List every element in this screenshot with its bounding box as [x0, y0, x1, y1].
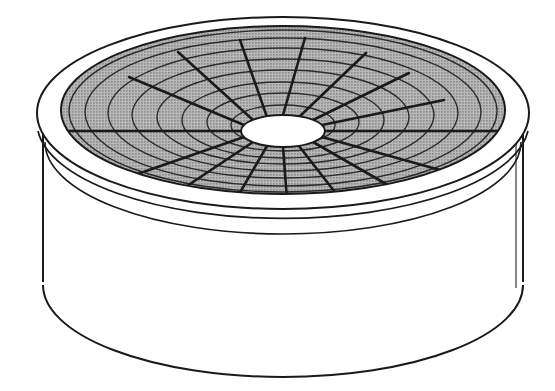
disc-hub — [241, 115, 325, 147]
technical-drawing-svg — [0, 0, 555, 391]
figure-root — [0, 0, 555, 391]
